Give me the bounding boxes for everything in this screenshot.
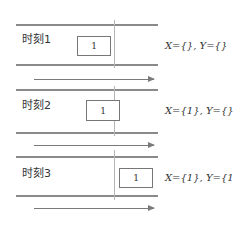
sets-text: X={1}, Y={1}: [165, 172, 234, 183]
track-bottom-line: [16, 132, 158, 134]
element-box: 1: [119, 168, 153, 188]
track-top-line: [16, 156, 158, 158]
track-bottom-line: [16, 195, 158, 197]
frame-label: 时刻2: [22, 96, 51, 112]
arrow-right-icon: [34, 208, 154, 209]
element-box: 1: [77, 36, 111, 56]
element-box: 1: [86, 100, 120, 121]
divider-line: [114, 20, 115, 68]
arrow-right-icon: [34, 145, 154, 146]
divider-line: [114, 150, 115, 200]
track-top-line: [16, 24, 158, 26]
arrow-right-icon: [34, 79, 154, 80]
track-bottom-line: [16, 64, 158, 66]
sets-text: X={}, Y={}: [165, 40, 227, 51]
sets-text: X={1}, Y={}: [165, 105, 234, 116]
track-top-line: [16, 89, 158, 91]
frame-label: 时刻3: [22, 164, 51, 180]
frame-label: 时刻1: [22, 30, 51, 46]
